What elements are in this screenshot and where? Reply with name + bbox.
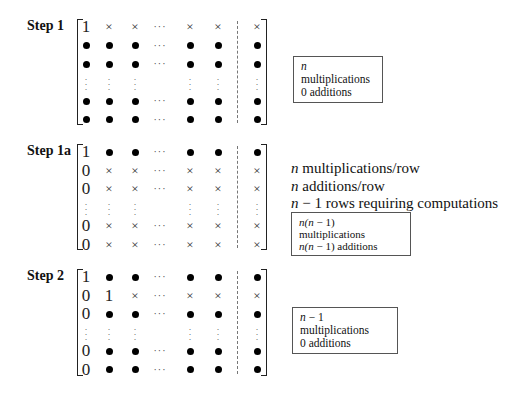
bullet-entry bbox=[99, 361, 119, 379]
bullet-entry bbox=[76, 92, 96, 110]
cross-entry: × bbox=[125, 180, 145, 198]
augment-divider bbox=[237, 21, 238, 123]
bullet-entry bbox=[180, 37, 200, 55]
cross-entry: × bbox=[180, 287, 200, 305]
number-entry: 0 bbox=[76, 342, 96, 360]
bullet-entry bbox=[76, 55, 96, 73]
bullet-entry bbox=[180, 92, 200, 110]
cross-entry: × bbox=[125, 18, 145, 36]
bullet-entry bbox=[125, 268, 145, 286]
cross-entry: × bbox=[99, 236, 119, 254]
bullet-entry bbox=[247, 268, 267, 286]
hdots-entry: ··· bbox=[150, 143, 170, 161]
bullet-entry bbox=[247, 111, 267, 129]
hdots-entry: ··· bbox=[150, 361, 170, 379]
cost-additions: 0 additions bbox=[301, 86, 375, 99]
bullet-entry bbox=[208, 92, 228, 110]
bullet-entry bbox=[125, 143, 145, 161]
bullet-entry bbox=[99, 143, 119, 161]
step-1a-cost-box: n(n − 1) multiplications n(n − 1) additi… bbox=[291, 212, 411, 256]
number-entry: 0 bbox=[76, 236, 96, 254]
number-entry: 0 bbox=[76, 287, 96, 305]
cross-entry: × bbox=[99, 18, 119, 36]
cross-entry: × bbox=[99, 217, 119, 235]
number-entry: 0 bbox=[76, 217, 96, 235]
bullet-entry bbox=[247, 92, 267, 110]
step-1a-label: Step 1a bbox=[27, 143, 71, 159]
bullet-entry bbox=[180, 305, 200, 323]
bullet-entry bbox=[99, 268, 119, 286]
step-1a-matrix: 1···0××···×××0××···×××··················… bbox=[77, 144, 267, 250]
step-1-cost-box: n multiplications 0 additions bbox=[293, 56, 383, 103]
number-entry: 0 bbox=[76, 361, 96, 379]
bullet-entry bbox=[208, 361, 228, 379]
number-entry: 1 bbox=[76, 143, 96, 161]
bullet-entry bbox=[208, 111, 228, 129]
bullet-entry bbox=[99, 111, 119, 129]
bullet-entry bbox=[180, 55, 200, 73]
cross-entry: × bbox=[180, 217, 200, 235]
cost-additions: 0 additions bbox=[300, 337, 390, 350]
bullet-entry bbox=[180, 111, 200, 129]
step-2-matrix: 1···01×···×××0·····················0···0… bbox=[77, 269, 267, 376]
cross-entry: × bbox=[247, 162, 267, 180]
bullet-entry bbox=[247, 361, 267, 379]
cross-entry: × bbox=[247, 18, 267, 36]
cost-additions: n(n − 1) additions bbox=[299, 240, 403, 252]
step-1-label: Step 1 bbox=[27, 18, 64, 34]
hdots-entry: ··· bbox=[150, 342, 170, 360]
cross-entry: × bbox=[247, 287, 267, 305]
bullet-entry bbox=[247, 37, 267, 55]
augment-divider bbox=[237, 271, 238, 374]
bullet-entry bbox=[125, 305, 145, 323]
bullet-entry bbox=[180, 342, 200, 360]
number-entry: 0 bbox=[76, 180, 96, 198]
bullet-entry bbox=[125, 342, 145, 360]
cross-entry: × bbox=[208, 236, 228, 254]
cross-entry: × bbox=[208, 18, 228, 36]
cross-entry: × bbox=[125, 162, 145, 180]
hdots-entry: ··· bbox=[150, 37, 170, 55]
number-entry: 1 bbox=[76, 268, 96, 286]
bullet-entry bbox=[76, 111, 96, 129]
cross-entry: × bbox=[208, 162, 228, 180]
bullet-entry bbox=[247, 55, 267, 73]
cross-entry: × bbox=[180, 18, 200, 36]
hdots-entry: ··· bbox=[150, 111, 170, 129]
cross-entry: × bbox=[125, 287, 145, 305]
note-additions-per-row: n additions/row bbox=[291, 178, 498, 196]
step-2-label: Step 2 bbox=[27, 268, 64, 284]
bullet-entry bbox=[247, 305, 267, 323]
bullet-entry bbox=[208, 55, 228, 73]
hdots-entry: ··· bbox=[150, 305, 170, 323]
cross-entry: × bbox=[125, 217, 145, 235]
bullet-entry bbox=[99, 305, 119, 323]
note-rows-requiring: n − 1 rows requiring computations bbox=[291, 195, 498, 213]
bullet-entry bbox=[180, 361, 200, 379]
bullet-entry bbox=[208, 37, 228, 55]
bullet-entry bbox=[125, 55, 145, 73]
bullet-entry bbox=[99, 37, 119, 55]
cross-entry: × bbox=[247, 180, 267, 198]
bullet-entry bbox=[125, 361, 145, 379]
bullet-entry bbox=[99, 55, 119, 73]
bullet-entry bbox=[180, 268, 200, 286]
bullet-entry bbox=[247, 342, 267, 360]
bullet-entry bbox=[76, 37, 96, 55]
hdots-entry: ··· bbox=[150, 55, 170, 73]
bullet-entry bbox=[125, 92, 145, 110]
cross-entry: × bbox=[180, 180, 200, 198]
step-2-cost-box: n − 1 multiplications 0 additions bbox=[292, 307, 398, 354]
cross-entry: × bbox=[208, 180, 228, 198]
bullet-entry bbox=[208, 143, 228, 161]
bullet-entry bbox=[180, 143, 200, 161]
step-1a-notes: n multiplications/row n additions/row n … bbox=[291, 160, 498, 213]
augment-divider bbox=[237, 146, 238, 248]
cross-entry: × bbox=[180, 162, 200, 180]
hdots-entry: ··· bbox=[150, 162, 170, 180]
bullet-entry bbox=[125, 37, 145, 55]
cross-entry: × bbox=[208, 217, 228, 235]
cross-entry: × bbox=[247, 236, 267, 254]
bullet-entry bbox=[99, 342, 119, 360]
number-entry: 1 bbox=[76, 18, 96, 36]
